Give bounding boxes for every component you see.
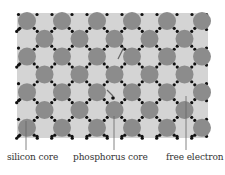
silicon-core (158, 12, 176, 30)
silicon-core (88, 83, 106, 101)
silicon-core (123, 83, 141, 101)
silicon-core (123, 119, 141, 137)
edge-electron (70, 13, 73, 16)
edge-electron (17, 28, 20, 31)
edge-electron (105, 135, 108, 138)
silicon-core (36, 101, 54, 119)
edge-electron (140, 13, 143, 16)
edge-electron (17, 135, 20, 138)
silicon-core (88, 48, 106, 66)
edge-electron (175, 135, 178, 138)
silicon-core (88, 119, 106, 137)
edge-electron (155, 135, 158, 138)
silicon-core (141, 101, 159, 119)
silicon-core (53, 83, 71, 101)
edge-electron (105, 13, 108, 16)
silicon-core (123, 48, 141, 66)
silicon-core (123, 12, 141, 30)
free-electron (111, 96, 115, 100)
edge-electron (17, 99, 20, 102)
edge-electron (175, 13, 178, 16)
edge-electron (140, 135, 143, 138)
silicon-core (141, 30, 159, 48)
free-electron-label: free electron (166, 152, 224, 162)
silicon-core (106, 101, 124, 119)
atom-cores (18, 12, 211, 137)
silicon-core (176, 101, 194, 119)
silicon-core (71, 30, 89, 48)
silicon-lattice-diagram (0, 0, 225, 175)
silicon-core (18, 119, 36, 137)
silicon-core (36, 30, 54, 48)
edge-electron (35, 135, 38, 138)
silicon-core (18, 12, 36, 30)
silicon-core (193, 119, 211, 137)
edge-electron (17, 118, 20, 121)
edge-electron (50, 135, 53, 138)
silicon-core (193, 12, 211, 30)
silicon-core (18, 48, 36, 66)
silicon-core (141, 65, 159, 83)
silicon-core (106, 30, 124, 48)
edge-electron (85, 135, 88, 138)
edge-electron (85, 13, 88, 16)
silicon-core (106, 65, 124, 83)
edge-electron (17, 82, 20, 85)
edge-electron (70, 135, 73, 138)
edge-electron (50, 13, 53, 16)
silicon-core (176, 65, 194, 83)
silicon-core (53, 12, 71, 30)
silicon-core (53, 119, 71, 137)
edge-electron (17, 47, 20, 50)
edge-electron (17, 13, 20, 16)
silicon-core (71, 65, 89, 83)
edge-electron (190, 13, 193, 16)
silicon-core (158, 83, 176, 101)
silicon-core (193, 48, 211, 66)
edge-electron (35, 13, 38, 16)
edge-electron (155, 13, 158, 16)
silicon-core (71, 101, 89, 119)
edge-electron (17, 64, 20, 67)
silicon-core-label: silicon core (7, 152, 58, 162)
silicon-core (158, 48, 176, 66)
silicon-core (53, 48, 71, 66)
silicon-core (158, 119, 176, 137)
silicon-core (193, 83, 211, 101)
edge-electron (190, 135, 193, 138)
silicon-core (18, 83, 36, 101)
phosphorus-core-label: phosphorus core (73, 152, 148, 162)
edge-electron (120, 13, 123, 16)
silicon-core (36, 65, 54, 83)
silicon-core (88, 12, 106, 30)
silicon-core (176, 30, 194, 48)
edge-electron (120, 135, 123, 138)
